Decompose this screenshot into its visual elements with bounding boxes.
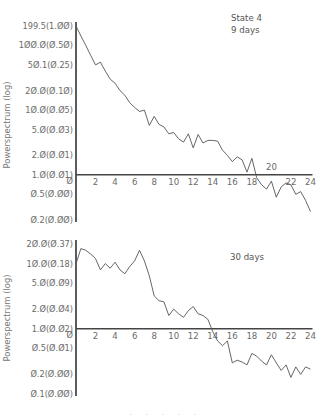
y-axis-label: Powerspectrum (log): [2, 82, 12, 169]
x-tick-label: 12: [188, 331, 199, 341]
x-tick-label: 16: [227, 177, 238, 187]
x-tick-label: 24: [305, 331, 316, 341]
y-tick-label: 199.5(1.ØØ): [22, 21, 73, 31]
x-tick-label: 2: [93, 331, 98, 341]
caption-fragment: - - - - -: [130, 410, 202, 417]
panel-annotation: 30 days: [230, 252, 264, 262]
y-tick-label: 1Ø.Ø(Ø.Ø5): [25, 105, 73, 115]
x-tick-label: 20: [266, 331, 277, 341]
y-tick-label: 1Ø.Ø(Ø.18): [26, 259, 73, 269]
chart-panel-30-days: 2Ø.Ø(Ø.37)1Ø.Ø(Ø.18)5.Ø(Ø.Ø9)2.Ø(Ø.Ø4)1.…: [2, 239, 316, 399]
chart-panel-9-days: 199.5(1.ØØ)1ØØ.Ø(Ø.5Ø)5Ø.1(Ø.25)2Ø.Ø(Ø.1…: [2, 13, 316, 225]
x-tick-label: 4: [112, 331, 117, 341]
powerspectrum-figure: 199.5(1.ØØ)1ØØ.Ø(Ø.5Ø)5Ø.1(Ø.25)2Ø.Ø(Ø.1…: [0, 0, 333, 418]
y-tick-label: 5.Ø(Ø.Ø9): [32, 278, 73, 288]
x-tick-label: 18: [246, 177, 257, 187]
y-tick-label: Ø.2(Ø.ØØ): [30, 215, 73, 225]
x-tick-label: 4: [112, 177, 117, 187]
y-tick-label: Ø.2(Ø.ØØ): [30, 369, 73, 379]
x-tick-label: 6: [132, 177, 137, 187]
powerspectrum-line: [76, 249, 311, 378]
panel-annotation: State 4: [231, 13, 262, 23]
x-tick-label: 10: [168, 177, 179, 187]
x-tick-label: 22: [285, 331, 296, 341]
y-axis-label: Powerspectrum (log): [2, 275, 12, 362]
x-origin-label: Ø: [67, 330, 74, 340]
x-tick-label: 20: [266, 162, 277, 172]
x-tick-label: 8: [151, 331, 156, 341]
x-tick-label: 24: [305, 177, 316, 187]
y-tick-label: 2.Ø(Ø.Ø1): [32, 150, 73, 160]
y-tick-label: 2.Ø(Ø.Ø4): [32, 304, 73, 314]
x-tick-label: 12: [188, 177, 199, 187]
x-tick-label: 8: [151, 177, 156, 187]
x-tick-label: 2: [93, 177, 98, 187]
x-tick-label: 18: [246, 331, 257, 341]
x-origin-label: Ø: [67, 176, 74, 186]
panel-annotation: 9 days: [231, 25, 260, 35]
y-tick-label: Ø.5(Ø.ØØ): [30, 189, 73, 199]
x-tick-label: 16: [227, 331, 238, 341]
y-tick-label: 2Ø.Ø(Ø.37): [26, 239, 73, 249]
y-tick-label: 2Ø.Ø(Ø.1Ø): [25, 86, 73, 96]
x-tick-label: 14: [207, 177, 218, 187]
x-tick-label: 6: [132, 331, 137, 341]
y-tick-label: Ø.1(Ø.ØØ): [30, 389, 73, 399]
y-tick-label: 1ØØ.Ø(Ø.5Ø): [19, 40, 73, 50]
y-tick-label: 5.Ø(Ø.Ø3): [32, 125, 73, 135]
y-tick-label: 5Ø.1(Ø.25): [28, 60, 73, 70]
x-tick-label: 10: [168, 331, 179, 341]
y-tick-label: Ø.5(Ø.Ø1): [32, 343, 73, 353]
